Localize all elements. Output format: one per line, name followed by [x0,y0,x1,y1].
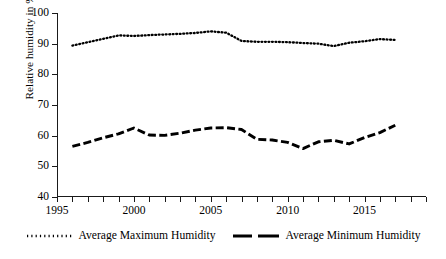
x-tick-mark [395,197,396,202]
y-tick-label: 40 [38,191,50,203]
humidity-line-chart: Relative humidity in % 405060708090100 1… [0,0,446,259]
x-tick-mark [134,197,135,202]
chart-legend: Average Maximum Humidity Average Minimum… [0,230,446,242]
x-tick-label: 2005 [199,205,222,217]
x-tick-mark [349,197,350,202]
x-tick-mark [411,197,412,202]
x-tick-mark [303,197,304,202]
y-axis-title: Relative humidity in % [23,0,35,127]
x-tick-mark [211,197,212,202]
x-tick-mark [195,197,196,202]
x-tick-mark [272,197,273,202]
x-tick-mark [318,197,319,202]
x-tick-mark [257,197,258,202]
x-tick-mark [57,197,58,202]
x-tick-label: 2010 [276,205,299,217]
legend-item-average-minimum-humidity: Average Minimum Humidity [232,230,420,242]
x-tick-mark [288,197,289,202]
x-tick-mark [88,197,89,202]
x-tick-mark [165,197,166,202]
x-tick-mark [226,197,227,202]
y-tick-label: 70 [38,99,50,111]
x-tick-label: 1995 [46,205,69,217]
y-tick-label: 100 [32,7,49,19]
x-tick-mark [365,197,366,202]
dashed-line-swatch [232,231,280,241]
x-tick-mark [72,197,73,202]
x-tick-mark [426,197,427,202]
x-tick-mark [380,197,381,202]
x-tick-mark [149,197,150,202]
series-line-average-maximum-humidity [72,31,395,46]
x-tick-label: 2015 [353,205,376,217]
x-tick-mark [334,197,335,202]
series-line-average-minimum-humidity [72,125,395,148]
legend-label: Average Maximum Humidity [79,230,216,242]
y-tick-label: 60 [38,130,50,142]
y-tick-label: 50 [38,161,50,173]
plot-area: 405060708090100 19952000200520102015 [57,13,426,197]
dotted-line-swatch [26,231,74,241]
y-tick-label: 90 [38,38,50,50]
x-tick-mark [180,197,181,202]
x-tick-mark [242,197,243,202]
legend-item-average-maximum-humidity: Average Maximum Humidity [26,230,216,242]
legend-label: Average Minimum Humidity [285,230,420,242]
x-tick-label: 2000 [122,205,145,217]
x-tick-mark [119,197,120,202]
series-container [57,13,426,197]
y-tick-label: 80 [38,69,50,81]
x-tick-mark [103,197,104,202]
